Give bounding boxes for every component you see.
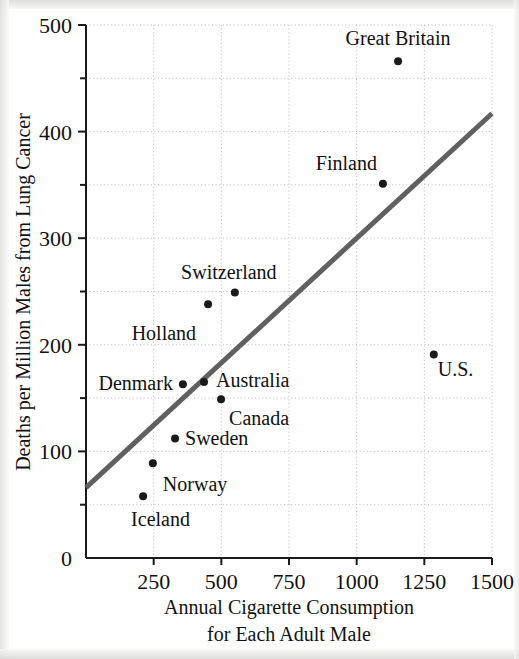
plot-svg: 2505007501000125015000100200300400500 Ic… [0,0,519,659]
data-point[interactable] [379,180,387,188]
data-point-label: Holland [132,322,196,344]
data-point[interactable] [394,57,402,65]
x-tick-label: 750 [273,569,306,594]
x-tick-label: 1500 [470,569,514,594]
x-tick-label: 1000 [335,569,379,594]
y-tick-label: 300 [39,226,72,251]
x-axis-title-line-1: Annual Cigarette Consumption [164,596,414,619]
data-point[interactable] [204,300,212,308]
data-point[interactable] [179,380,187,388]
data-point-label: Denmark [98,372,172,394]
point-labels-layer: IcelandNorwaySwedenCanadaDenmarkAustrali… [98,27,473,530]
y-tick-label: 400 [39,120,72,145]
data-point[interactable] [149,459,157,467]
data-point-label: Sweden [185,427,248,449]
data-point-label: Canada [229,407,289,429]
page-canvas: 2505007501000125015000100200300400500 Ic… [0,0,519,659]
x-tick-label: 1250 [402,569,446,594]
y-tick-label: 200 [39,333,72,358]
tick-marks-layer [78,25,492,565]
y-tick-label: 500 [39,13,72,38]
data-point[interactable] [139,492,147,500]
grid-layer [86,25,492,558]
data-point-label: Switzerland [181,261,277,283]
y-tick-label: 0 [61,546,72,571]
data-point-label: Iceland [131,508,190,530]
data-point-label: Australia [216,369,289,391]
scatter-plot-figure: 2505007501000125015000100200300400500 Ic… [0,0,519,659]
data-point[interactable] [231,289,239,297]
data-point[interactable] [200,378,208,386]
x-tick-label: 250 [137,569,170,594]
data-point-label: Great Britain [346,27,451,49]
data-point[interactable] [171,435,179,443]
data-point[interactable] [217,395,225,403]
data-point-label: Norway [163,473,227,496]
y-tick-label: 100 [39,439,72,464]
data-point-label: Finland [316,152,377,174]
tick-labels-layer: 2505007501000125015000100200300400500 [39,13,514,594]
y-axis-title: Deaths per Million Males from Lung Cance… [12,113,35,471]
x-axis-title-line-2: for Each Adult Male [207,623,371,645]
x-tick-label: 500 [205,569,238,594]
data-point[interactable] [430,350,438,358]
data-point-label: U.S. [438,358,474,380]
